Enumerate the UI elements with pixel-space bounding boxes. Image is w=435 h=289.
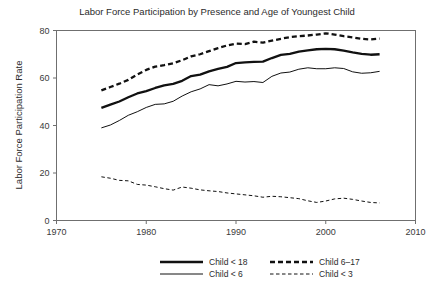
y-tick-label-80: 80 [39,26,49,36]
series-line-3 [101,177,379,203]
series-line-0 [101,49,379,108]
legend-label-2: Child < 6 [209,269,243,279]
legend-label-0: Child < 18 [209,257,248,267]
x-tick-label-1970: 1970 [46,227,66,237]
y-tick-label-60: 60 [39,73,49,83]
x-tick-label-1980: 1980 [136,227,156,237]
chart-title: Labor Force Participation by Presence an… [79,6,355,17]
series-lines [101,33,379,203]
legend-label-3: Child < 3 [319,269,353,279]
series-line-2 [101,68,379,128]
x-tick-label-2010: 2010 [405,227,425,237]
y-tick-label-20: 20 [39,168,49,178]
x-tick-label-1990: 1990 [226,227,246,237]
chart-container: Labor Force Participation by Presence an… [0,0,435,289]
y-axis-title: Labor Force Participation Rate [13,61,24,190]
chart-legend: Child < 18Child 6–17Child < 6Child < 3 [160,257,360,279]
y-axis-ticks: 020406080 [39,26,56,226]
y-tick-label-40: 40 [39,121,49,131]
legend-label-1: Child 6–17 [319,257,360,267]
x-axis-ticks: 19701980199020002010 [46,221,425,237]
y-tick-label-0: 0 [44,216,49,226]
x-tick-label-2000: 2000 [316,227,336,237]
chart-svg: Labor Force Participation by Presence an… [0,0,435,289]
